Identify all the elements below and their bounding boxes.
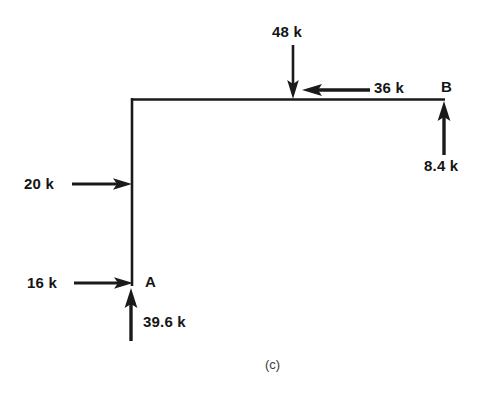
free-body-diagram-figure: 48 k 36 k B 8.4 k 20 k 16 k A 39.6 k (c) bbox=[0, 0, 495, 395]
force-label-48k: 48 k bbox=[272, 24, 302, 39]
diagram-canvas bbox=[0, 0, 495, 395]
force-label-16k: 16 k bbox=[27, 275, 57, 290]
force-label-20k: 20 k bbox=[24, 176, 54, 191]
joint-label-a: A bbox=[145, 274, 156, 289]
force-arrow-20k bbox=[72, 178, 132, 190]
joint-label-b: B bbox=[441, 79, 452, 94]
force-label-36k: 36 k bbox=[374, 80, 404, 95]
force-arrow-39.6k bbox=[125, 288, 138, 341]
force-arrow-8.4k bbox=[438, 101, 451, 155]
force-arrow-16k bbox=[74, 277, 133, 289]
force-label-8.4k: 8.4 k bbox=[424, 158, 458, 173]
force-label-39.6k: 39.6 k bbox=[143, 314, 186, 329]
frame-structure bbox=[131, 98, 445, 286]
figure-caption: (c) bbox=[265, 358, 280, 371]
force-arrow-36k bbox=[302, 84, 370, 96]
force-arrow-48k bbox=[287, 45, 299, 99]
